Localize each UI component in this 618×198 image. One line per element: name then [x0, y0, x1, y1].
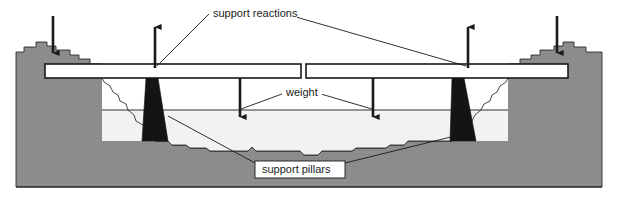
weight-label: weight	[285, 86, 318, 98]
support-reactions-label: support reactions	[213, 7, 298, 19]
diagram-canvas: support reactions weight support pillars	[0, 0, 618, 198]
support-pillars-label: support pillars	[262, 163, 331, 175]
bridge-deck-left-span	[45, 64, 301, 78]
bridge-diagram-figure: support reactions weight support pillars	[0, 0, 618, 198]
bridge-deck-group	[45, 64, 568, 78]
bridge-deck-right-span	[306, 64, 568, 78]
